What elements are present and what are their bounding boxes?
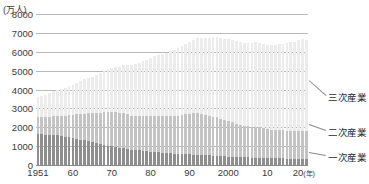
plot-area [36,14,308,165]
y-axis: 800070006000500040003000200010000 [0,0,33,184]
bar-segment-二次産業 [305,131,308,159]
legend-label-一次産業: 一次産業 [328,150,367,164]
legend-leader-line [309,80,327,96]
y-axis-tick-label: 8000 [12,9,33,20]
employment-by-industry-chart: (万人) 800070006000500040003000200010000 1… [0,0,369,184]
y-axis-tick-label: 7000 [12,27,33,38]
x-axis-tick-label: 80 [145,167,156,178]
axis-baseline [36,165,308,166]
bar-segment-三次産業 [305,40,308,132]
y-axis-tick-label: 2000 [12,122,33,133]
x-axis-tick-label: 10 [262,167,273,178]
legend-leader-line [309,124,326,131]
x-axis-year-suffix: (年) [303,170,315,177]
legend-label-三次産業: 三次産業 [328,90,367,104]
x-axis-tick-label: 2000 [218,167,239,178]
legend-label-二次産業: 二次産業 [328,125,367,139]
x-axis-tick-label: 20(年) [293,167,315,178]
bar-series-container [36,14,308,165]
y-axis-tick-label: 5000 [12,65,33,76]
y-axis-tick-label: 4000 [12,84,33,95]
y-axis-tick-label: 3000 [12,103,33,114]
y-axis-tick-label: 1000 [12,141,33,152]
x-axis-tick-label: 70 [106,167,117,178]
y-axis-tick-label: 6000 [12,46,33,57]
legend-leader-line [309,152,326,156]
bar-2020 [304,14,308,165]
bar-segment-一次産業 [305,159,308,165]
x-axis-tick-label: 1951 [27,167,48,178]
x-axis-tick-label: 90 [184,167,195,178]
x-axis-tick-label: 60 [68,167,79,178]
